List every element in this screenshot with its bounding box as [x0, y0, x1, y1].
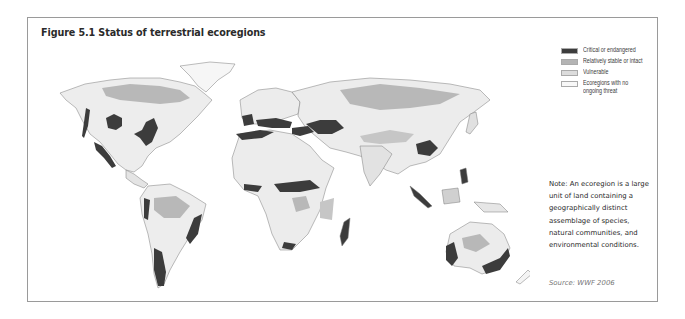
legend-label-line2: ongoing threat: [583, 87, 617, 94]
legend-item-critical: Critical or endangered: [561, 46, 657, 54]
map-legend: Critical or endangered Relatively stable…: [561, 46, 657, 98]
legend-label: Ecoregions with no ongoing threat: [583, 79, 628, 95]
legend-item-vulnerable: Vulnerable: [561, 68, 657, 76]
legend-label: Vulnerable: [583, 68, 608, 76]
legend-swatch-vulnerable: [561, 70, 578, 76]
new-zealand: [516, 270, 530, 284]
source-text: Source: WWF 2006: [549, 279, 615, 287]
legend-item-stable: Relatively stable or intact: [561, 57, 657, 65]
note-text: Note: An ecoregion is a large unit of la…: [549, 178, 649, 251]
legend-swatch-no-threat: [561, 81, 578, 87]
legend-swatch-stable: [561, 59, 578, 65]
figure-title: Figure 5.1 Status of terrestrial ecoregi…: [41, 27, 265, 38]
sumatra-critical: [410, 186, 432, 208]
world-map: [30, 38, 530, 300]
central-america: [126, 170, 148, 188]
legend-label: Relatively stable or intact: [583, 57, 643, 65]
legend-label-line1: Ecoregions with no: [583, 79, 628, 86]
legend-swatch-critical: [561, 48, 578, 54]
figure-frame: Figure 5.1 Status of terrestrial ecoregi…: [27, 17, 658, 302]
legend-label: Critical or endangered: [583, 46, 636, 54]
iberia-critical: [242, 114, 254, 126]
madagascar-critical: [340, 218, 350, 246]
legend-item-no-threat: Ecoregions with no ongoing threat: [561, 79, 657, 95]
borneo: [442, 188, 460, 204]
new-guinea: [474, 202, 508, 212]
mediterranean-critical: [256, 118, 292, 128]
philippines-critical: [460, 168, 468, 184]
